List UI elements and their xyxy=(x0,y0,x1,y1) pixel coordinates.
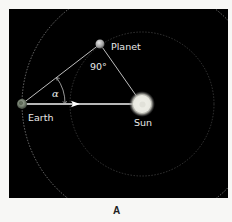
right-angle-label: 90° xyxy=(90,61,107,72)
sun-label: Sun xyxy=(134,117,152,128)
alpha-angle-label: α xyxy=(52,88,59,99)
figure-label: A xyxy=(113,205,120,216)
earth-label: Earth xyxy=(28,112,53,123)
elongation-diagram: Planet 90° α Earth Sun A xyxy=(0,0,232,222)
planet-icon xyxy=(96,40,105,49)
sun-core xyxy=(140,102,146,108)
planet-label: Planet xyxy=(111,41,141,52)
